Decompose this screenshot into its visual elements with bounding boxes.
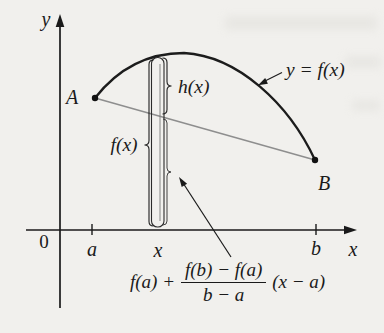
formula-denominator: b − a	[203, 283, 244, 306]
x-axis-arrowhead-icon	[344, 226, 357, 235]
formula-prefix: f(a) +	[130, 271, 175, 293]
formula-fraction: f(b) − f(a) b − a	[181, 259, 266, 306]
vertical-strip	[152, 58, 165, 228]
formula-suffix: (x − a)	[272, 271, 325, 293]
curve-label-arrow	[264, 73, 282, 82]
tick-label-x: x	[153, 239, 163, 261]
formula-arrowhead-icon	[179, 177, 187, 187]
f-of-x-label: f(x)	[110, 134, 137, 156]
origin-label: 0	[39, 231, 49, 252]
point-B-label: B	[318, 172, 330, 194]
mvt-proof-figure: y x 0 a x b A B y = f(x) h(x) f(x) f(a) …	[0, 0, 384, 333]
point-B-dot	[312, 157, 318, 163]
tick-label-b: b	[311, 237, 321, 259]
y-axis-arrowhead-icon	[56, 14, 65, 27]
y-axis-label: y	[40, 8, 51, 31]
formula-arrow	[184, 185, 231, 258]
point-A-dot	[92, 95, 98, 101]
f-of-x-brace	[145, 60, 154, 226]
x-axis-label: x	[348, 238, 358, 260]
secant-formula: f(a) + f(b) − f(a) b − a (x − a)	[130, 259, 325, 306]
formula-numerator: f(b) − f(a)	[181, 259, 266, 283]
curve-label-arrowhead-icon	[258, 78, 268, 85]
h-of-x-label: h(x)	[178, 76, 209, 98]
tick-label-a: a	[87, 238, 97, 260]
curve-label: y = f(x)	[284, 59, 345, 81]
point-A-label: A	[64, 86, 79, 108]
